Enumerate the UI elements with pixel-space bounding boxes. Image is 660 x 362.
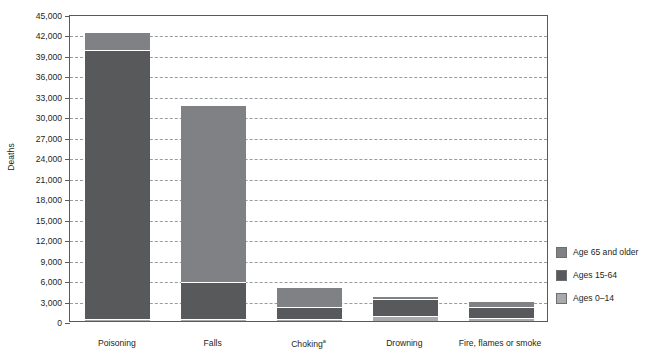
bar-falls[interactable] xyxy=(181,106,246,321)
tick-mark xyxy=(65,200,70,201)
bar-segment xyxy=(181,106,246,282)
chart-container: Deaths 03,0006,0009,00012,00015,00018,00… xyxy=(0,0,660,362)
bar-segment xyxy=(277,319,342,321)
legend-swatch-icon xyxy=(556,270,567,281)
y-axis-tick-label: 21,000 xyxy=(8,175,62,184)
bar-segment xyxy=(469,307,534,317)
y-axis-tick-label: 30,000 xyxy=(8,114,62,123)
y-axis-tick-label: 33,000 xyxy=(8,94,62,103)
y-axis-tick-label: 18,000 xyxy=(8,196,62,205)
x-axis-label-falls: Falls xyxy=(165,338,261,348)
tick-mark xyxy=(65,57,70,58)
y-axis-tick-label: 6,000 xyxy=(8,278,62,287)
bar-segment xyxy=(85,33,150,50)
bar-segment xyxy=(373,299,438,316)
bar-segment xyxy=(277,307,342,319)
bar-poisoning[interactable] xyxy=(85,33,150,321)
x-axis-label-choking: Chokinga xyxy=(261,338,357,349)
tick-mark xyxy=(65,241,70,242)
legend-swatch-icon xyxy=(556,247,567,258)
tick-mark xyxy=(65,180,70,181)
y-axis-tick-label: 9,000 xyxy=(8,257,62,266)
tick-mark xyxy=(65,262,70,263)
y-axis-tick-label: 39,000 xyxy=(8,53,62,62)
y-axis-tick-label: 3,000 xyxy=(8,298,62,307)
y-axis-tick-label: 12,000 xyxy=(8,237,62,246)
bar-segment xyxy=(277,288,342,307)
tick-mark xyxy=(65,282,70,283)
bar-segment xyxy=(181,319,246,321)
x-axis-label-poisoning: Poisoning xyxy=(69,338,165,348)
tick-mark xyxy=(65,303,70,304)
x-axis-label-fire-flames-or-smoke: Fire, flames or smoke xyxy=(452,338,548,348)
chart-legend: Age 65 and olderAges 15-64Ages 0–14 xyxy=(556,247,638,304)
y-axis-tick-label: 45,000 xyxy=(8,12,62,21)
bar-segment xyxy=(469,318,534,321)
bar-drowning[interactable] xyxy=(373,297,438,321)
bar-fire-flames-or-smoke[interactable] xyxy=(469,302,534,321)
legend-item-label: Age 65 and older xyxy=(573,248,638,257)
bar-segment xyxy=(85,319,150,321)
y-axis-tick-label: 42,000 xyxy=(8,32,62,41)
y-axis-tick-label: 0 xyxy=(8,319,62,328)
tick-mark xyxy=(65,16,70,17)
tick-mark xyxy=(65,139,70,140)
x-axis-label-drowning: Drowning xyxy=(356,338,452,348)
tick-mark xyxy=(65,159,70,160)
y-axis-tick-label: 24,000 xyxy=(8,155,62,164)
bar-segment xyxy=(85,50,150,319)
y-axis-tick-label: 15,000 xyxy=(8,216,62,225)
legend-item-label: Ages 15-64 xyxy=(573,271,617,280)
tick-mark xyxy=(65,323,70,324)
legend-item[interactable]: Ages 0–14 xyxy=(556,293,638,304)
legend-swatch-icon xyxy=(556,293,567,304)
legend-item[interactable]: Ages 15-64 xyxy=(556,270,638,281)
legend-item-label: Ages 0–14 xyxy=(573,294,614,303)
tick-mark xyxy=(65,77,70,78)
y-axis-tick-label: 36,000 xyxy=(8,73,62,82)
y-axis-tick-label: 27,000 xyxy=(8,135,62,144)
bar-segment xyxy=(373,316,438,321)
legend-item[interactable]: Age 65 and older xyxy=(556,247,638,258)
bar-choking[interactable] xyxy=(277,288,342,321)
tick-mark xyxy=(65,221,70,222)
bar-segment xyxy=(181,282,246,319)
tick-mark xyxy=(65,36,70,37)
plot-area: 03,0006,0009,00012,00015,00018,00021,000… xyxy=(69,15,548,322)
tick-mark xyxy=(65,118,70,119)
tick-mark xyxy=(65,98,70,99)
